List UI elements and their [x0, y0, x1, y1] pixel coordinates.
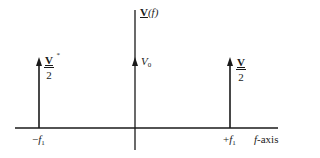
x-axis-label-suffix: -axis: [257, 133, 278, 145]
minus-f1-amplitude-sup: *: [56, 52, 60, 59]
minus-f1-sub: 1: [41, 139, 45, 147]
plus-f1-sub: 1: [232, 139, 236, 147]
minus-f1-tick-label: −f1: [32, 134, 45, 147]
dc-amplitude-label: V0: [141, 56, 151, 69]
plus-f1-tick-label: +f1: [223, 134, 236, 147]
plus-f1-amplitude-label: V 2: [236, 57, 246, 83]
arrow-head-icon: [132, 57, 138, 66]
dc-amplitude-var: V: [141, 55, 148, 67]
arrow-head-icon: [36, 57, 42, 66]
minus-f1-amplitude-label: V* 2: [44, 55, 54, 81]
y-axis-label-symbol: V: [140, 6, 148, 18]
minus-f1-amplitude-num: V: [45, 54, 53, 66]
dc-amplitude-sub: 0: [148, 61, 152, 69]
y-axis-label-arg: (f): [148, 6, 158, 18]
y-axis-label: V(f): [140, 7, 158, 18]
plus-f1-amplitude-num: V: [237, 56, 245, 68]
arrow-head-icon: [227, 57, 233, 66]
minus-f1-amplitude-den: 2: [46, 68, 52, 81]
plus-f1-amplitude-den: 2: [238, 70, 244, 83]
x-axis-label: f-axis: [254, 134, 278, 145]
